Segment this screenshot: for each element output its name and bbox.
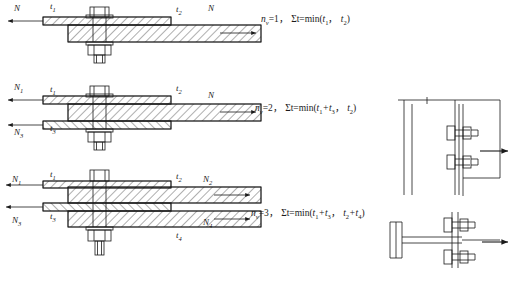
force-label-right-row1: N <box>208 4 214 13</box>
row-double-shear <box>8 86 261 150</box>
thickness-label-t2-row2: t2 <box>176 84 182 95</box>
force-label-n1-row2: N1 <box>14 83 23 94</box>
force-label-left-row1: N <box>14 4 20 13</box>
thickness-label-t1-row3: t1 <box>50 170 56 181</box>
force-label-n1-row3: N1 <box>12 175 21 186</box>
thickness-label-t1-row1: t1 <box>50 2 56 13</box>
thickness-label-t2-row1: t2 <box>176 5 182 16</box>
thickness-label-t1-row2: t1 <box>50 85 56 96</box>
force-label-n-row2: N <box>208 91 214 100</box>
force-label-n3-row3: N3 <box>12 216 21 227</box>
thickness-label-t2-row3: t2 <box>176 172 182 183</box>
force-label-n2-row3: N2 <box>203 175 212 186</box>
formula-triple-shear: nv=3， Σt=min(t1+t3， t2+t4) <box>251 209 365 220</box>
detail-elevation-bolted-beam-column <box>398 97 508 196</box>
thickness-label-t3-row3: t3 <box>50 212 56 223</box>
thickness-label-t3-row2: t3 <box>50 124 56 135</box>
row-triple-shear <box>6 170 261 255</box>
formula-single-shear: nv=1， Σt=min(t1， t2) <box>261 15 350 26</box>
diagram-svg <box>0 0 514 284</box>
figure-canvas: N N t1 t2 N1 N3 N t1 t2 t3 N1 N3 N2 N4 t… <box>0 0 514 284</box>
force-label-n4-row3: N4 <box>203 218 212 229</box>
force-label-n3-row2: N3 <box>14 128 23 139</box>
formula-double-shear: nv=2， Σt=min(t1+t3， t2) <box>255 104 356 115</box>
row-single-shear <box>8 7 261 63</box>
thickness-label-t4-row3: t4 <box>176 231 182 242</box>
detail-plan-tee-connection <box>390 212 508 268</box>
